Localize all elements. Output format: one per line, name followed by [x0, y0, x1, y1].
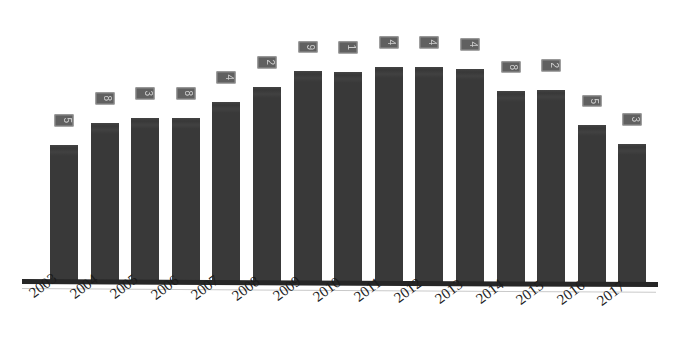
bar[interactable]: [578, 125, 606, 282]
bar-value-label: 4: [420, 37, 439, 49]
bar[interactable]: [456, 69, 484, 282]
bar[interactable]: [415, 67, 443, 282]
bar-value-label: 3: [136, 88, 155, 100]
bar-group: 9: [294, 2, 322, 282]
bar[interactable]: [91, 123, 119, 282]
bar-value-label: 1: [339, 42, 358, 54]
plot-area: 583842914448253: [0, 0, 675, 282]
bar-value-label: 8: [95, 93, 114, 105]
bar-group: 2: [253, 2, 281, 282]
bar-chart: 583842914448253 200320042005200620072008…: [0, 0, 675, 363]
bar-value-label: 3: [623, 114, 642, 126]
bar-value-label: 2: [542, 60, 561, 72]
bar-value-label: 4: [461, 39, 480, 51]
bar-group: 8: [91, 2, 119, 282]
bar[interactable]: [50, 145, 78, 282]
bar[interactable]: [131, 118, 159, 282]
bar[interactable]: [334, 72, 362, 282]
bar-value-label: 9: [298, 41, 317, 53]
x-axis-tick-labels: 2003200420052006200720082009201020112012…: [0, 288, 675, 363]
bar-group: 5: [50, 2, 78, 282]
bar-value-label: 2: [258, 57, 277, 69]
bar-value-label: 4: [379, 37, 398, 49]
bar-group: 4: [212, 2, 240, 282]
bar[interactable]: [294, 71, 322, 282]
bar[interactable]: [212, 102, 240, 282]
bar-group: 2: [537, 2, 565, 282]
bar-group: 8: [497, 2, 525, 282]
bar-group: 4: [456, 2, 484, 282]
bar[interactable]: [537, 90, 565, 282]
bar-value-label: 4: [217, 72, 236, 84]
bar-group: 3: [131, 2, 159, 282]
bar-group: 4: [415, 2, 443, 282]
bar-value-label: 8: [501, 61, 520, 73]
bar-group: 4: [375, 2, 403, 282]
bar[interactable]: [172, 118, 200, 282]
bar-group: 3: [618, 2, 646, 282]
bar-group: 5: [578, 2, 606, 282]
bar[interactable]: [375, 67, 403, 282]
bar[interactable]: [253, 87, 281, 282]
bar-value-label: 8: [176, 88, 195, 100]
bar[interactable]: [618, 144, 646, 282]
bar-value-label: 5: [55, 115, 74, 127]
bar-group: 1: [334, 2, 362, 282]
bar-group: 8: [172, 2, 200, 282]
bar-value-label: 5: [582, 95, 601, 107]
bar[interactable]: [497, 91, 525, 282]
